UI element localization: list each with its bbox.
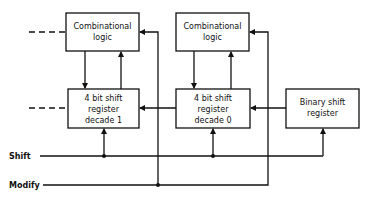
modify-signal-label: Modify bbox=[9, 181, 40, 190]
sr0-label-line3: decade 0 bbox=[195, 116, 232, 125]
binary-label-line1: Binary shift bbox=[300, 98, 346, 107]
sr1-label-line1: 4 bit shift bbox=[85, 94, 123, 103]
shift-signal-label: Shift bbox=[9, 152, 31, 161]
combinational-logic-decade-0-block bbox=[176, 13, 249, 51]
binary-label-line2: register bbox=[307, 109, 339, 118]
sr0-label-line2: register bbox=[198, 105, 230, 114]
combinational-logic-decade-1-block bbox=[66, 13, 139, 51]
sr0-label-line1: 4 bit shift bbox=[194, 94, 232, 103]
block-diagram: Combinational logic Combinational logic … bbox=[0, 0, 367, 197]
comb1-label-line2: logic bbox=[93, 33, 112, 42]
comb0-label-line1: Combinational bbox=[184, 22, 242, 31]
sr1-label-line2: register bbox=[88, 105, 120, 114]
comb0-label-line2: logic bbox=[203, 33, 222, 42]
comb1-label-line1: Combinational bbox=[74, 22, 132, 31]
sr1-label-line3: decade 1 bbox=[85, 116, 122, 125]
